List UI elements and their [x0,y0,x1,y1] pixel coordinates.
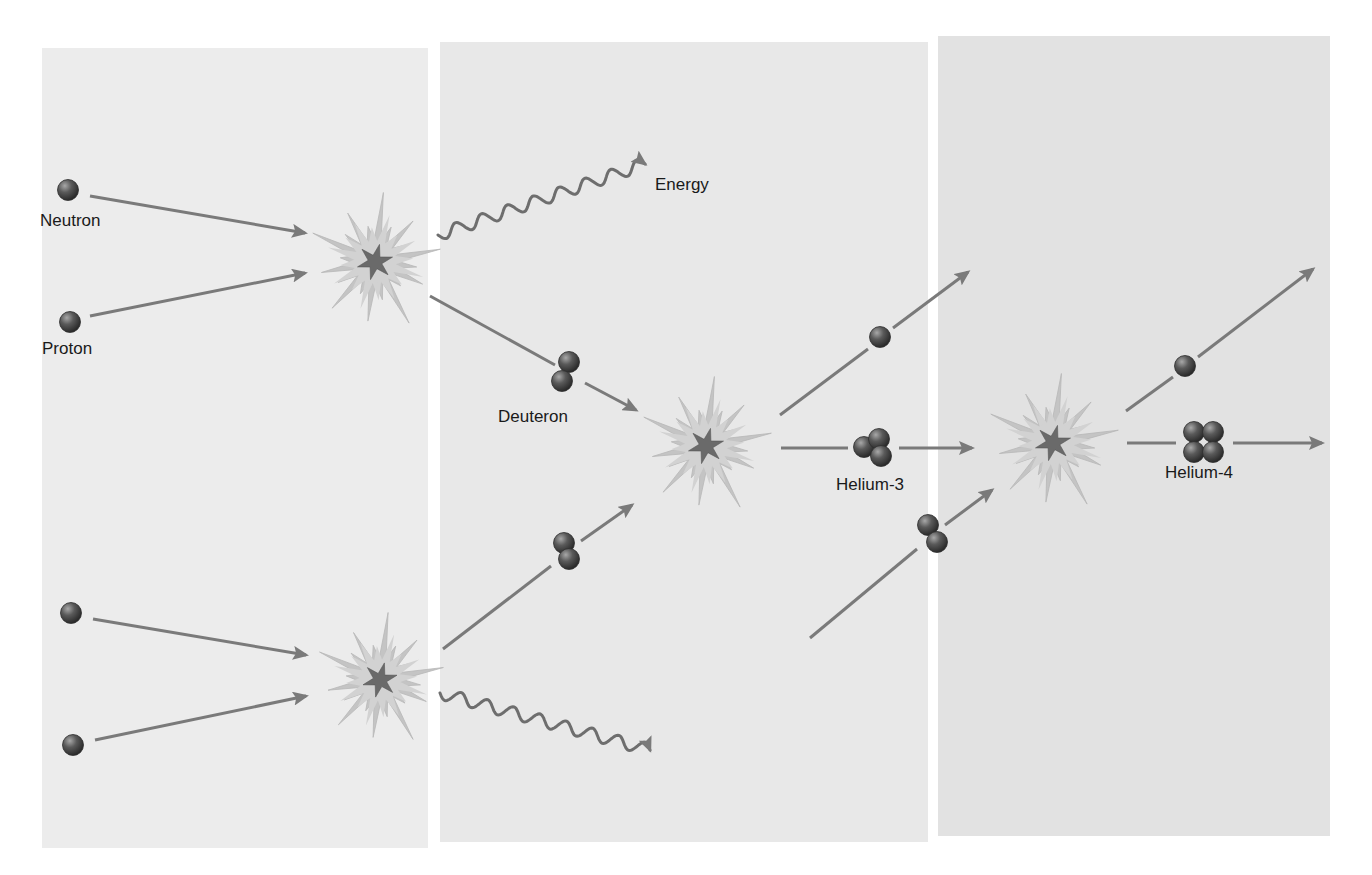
panel-stage-1 [42,48,428,848]
nucleon-sphere [1184,422,1205,443]
label-energy: Energy [655,175,709,194]
neutron-top-icon [58,180,79,201]
nucleon-sphere [552,371,573,392]
panel-stage-3 [938,36,1330,836]
released-particle-right-icon [1175,356,1196,377]
proton-top-icon [60,312,81,333]
label-deuteron: Deuteron [498,407,568,426]
fusion-diagram: Neutron Proton Energy Deuteron Helium-3 … [0,0,1372,875]
nucleon-sphere [1184,442,1205,463]
nucleon-sphere [1203,422,1224,443]
label-helium-4: Helium-4 [1165,463,1233,482]
nucleon-sphere [559,352,580,373]
label-helium-3: Helium-3 [836,475,904,494]
label-neutron: Neutron [40,211,100,230]
nucleon-sphere [871,446,892,467]
nucleon-sphere [559,549,580,570]
neutron-bottom-icon [61,603,82,624]
label-proton: Proton [42,339,92,358]
proton-bottom-icon [63,735,84,756]
nucleon-sphere [927,532,948,553]
released-particle-middle-icon [870,327,891,348]
nucleon-sphere [1203,442,1224,463]
